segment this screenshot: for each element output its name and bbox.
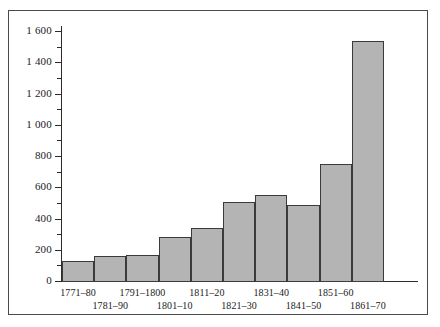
chart-figure: 02004006008001 0001 2001 4001 600 1771–8…: [0, 0, 440, 327]
x-axis-labels: 1771–801781–901791–18001801–101811–20182…: [0, 0, 440, 327]
x-axis-tick-label: 1801–10: [141, 300, 209, 311]
x-axis-tick-label: 1791–1800: [109, 287, 177, 298]
x-axis-tick-label: 1811–20: [173, 287, 241, 298]
x-axis-tick-label: 1851–60: [302, 287, 370, 298]
x-axis-tick-label: 1831–40: [237, 287, 305, 298]
x-axis-tick-label: 1781–90: [76, 300, 144, 311]
x-axis-tick-label: 1861–70: [334, 300, 402, 311]
x-axis-tick-label: 1841–50: [270, 300, 338, 311]
x-axis-tick-label: 1821–30: [205, 300, 273, 311]
x-axis-tick-label: 1771–80: [44, 287, 112, 298]
